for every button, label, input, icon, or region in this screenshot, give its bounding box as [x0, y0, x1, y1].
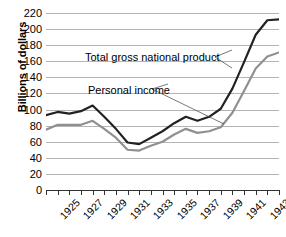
gnp-personal-income-line-chart: Billions of dollars 02040608010012014016… — [0, 0, 286, 237]
annotation-personal-income: Personal income — [88, 84, 170, 96]
annotation-total-gross-national-product: Total gross national product — [85, 51, 220, 63]
annotation-leader-lines — [0, 0, 286, 237]
